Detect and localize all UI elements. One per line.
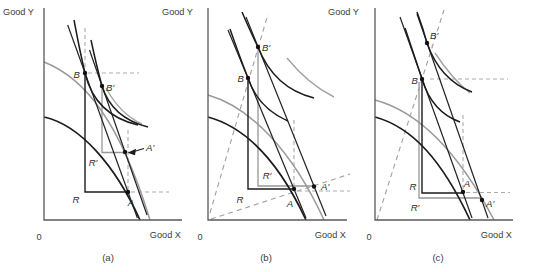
figure-canvas: B B′ A A′ R R′ Good Y Good X 0 (a) (0, 0, 534, 272)
point-A-prime-label: A′ (485, 198, 495, 209)
y-axis-label: Good Y (3, 7, 34, 17)
point-R-prime-label: R′ (411, 202, 421, 213)
point-B-label: B (238, 73, 245, 84)
point-A-prime-label: A′ (145, 142, 155, 153)
point-R-prime-label: R′ (89, 157, 99, 168)
point-B-prime-dot (256, 45, 260, 49)
panel-caption: (b) (260, 252, 272, 263)
origin-label: 0 (197, 232, 202, 242)
point-B-prime-dot (425, 41, 429, 45)
origin-label: 0 (366, 232, 371, 242)
x-axis-label: Good X (315, 230, 346, 240)
indifference-curve-B-prime (417, 12, 472, 92)
trade-growth-figure: B B′ A A′ R R′ Good Y Good X 0 (a) (0, 0, 534, 272)
ppf-old-curve (44, 117, 140, 220)
point-B-label: B (412, 75, 419, 86)
point-A-label: A (463, 178, 470, 189)
point-A-prime-label: A′ (320, 181, 330, 192)
indifference-curve-gray (287, 58, 334, 97)
trade-triangle-new (419, 82, 482, 198)
point-B-dot (246, 76, 250, 80)
point-B-prime-label: B′ (262, 42, 271, 53)
A-prime-arrowhead-icon (128, 149, 137, 155)
y-axis-label: Good Y (162, 7, 193, 17)
indifference-curve-gray (435, 53, 470, 93)
indifference-curve-B-prime (242, 12, 314, 98)
point-A-dot (126, 190, 130, 194)
point-B-prime-label: B′ (430, 30, 439, 41)
point-R-label: R (237, 194, 244, 205)
point-R-prime-label: R′ (263, 170, 273, 181)
panel-a: B B′ A A′ R R′ Good Y Good X 0 (a) (3, 7, 182, 263)
point-A-dot (461, 190, 465, 194)
y-axis-label: Good Y (328, 7, 359, 17)
point-A-prime-dot (123, 150, 127, 154)
x-axis-label: Good X (481, 230, 512, 240)
point-A-prime-dot (312, 184, 316, 188)
point-A-label: A (127, 197, 134, 208)
indifference-curve-gray (106, 88, 142, 124)
price-line-new (90, 50, 148, 215)
origin-label: 0 (36, 232, 41, 242)
panel-caption: (a) (102, 252, 114, 263)
point-A-prime-dot (480, 198, 484, 202)
origin-ray-steep (210, 14, 268, 213)
point-A-dot (292, 187, 296, 191)
point-R-label: R (73, 194, 80, 205)
point-A-label: A (286, 198, 293, 209)
panel-c: B B′ A A′ R R′ Good Y Good X 0 (c) (328, 7, 513, 263)
point-B-dot (420, 77, 424, 81)
point-B-prime-dot (100, 84, 104, 88)
point-R-label: R (410, 181, 417, 192)
point-B-prime-label: B′ (106, 82, 115, 93)
x-axis-label: Good X (150, 230, 181, 240)
point-B-label: B (74, 69, 81, 80)
point-B-dot (83, 71, 87, 75)
panel-b: B B′ A A′ R R′ Good Y Good X 0 (b) (162, 7, 350, 263)
panel-caption: (c) (432, 252, 443, 263)
